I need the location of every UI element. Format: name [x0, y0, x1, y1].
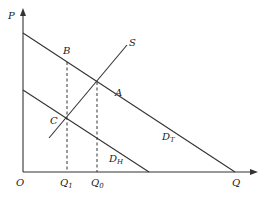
svg-text:DT: DT: [161, 131, 176, 144]
x-axis-arrow-icon: [250, 169, 258, 175]
point-a-label: A: [114, 87, 122, 98]
svg-text:Q0: Q0: [91, 177, 104, 190]
curve-dt: [23, 33, 235, 172]
point-b-label: B: [62, 45, 70, 56]
svg-text:Q1: Q1: [60, 177, 73, 190]
tick-label-q1: Q1: [60, 177, 73, 190]
y-axis-arrow-icon: [20, 8, 26, 16]
curve-dh: [23, 90, 149, 172]
curve-dt-label: DT: [161, 131, 176, 144]
y-axis-label: P: [7, 10, 15, 21]
curve-dh-label: DH: [108, 153, 124, 166]
tick-label-q0: Q0: [91, 177, 104, 190]
x-axis-label: Q: [232, 177, 240, 188]
curve-s-label: S: [129, 37, 136, 48]
economics-diagram: P O Q B A C S DT DH Q1 Q0: [0, 0, 265, 199]
point-c-label: C: [50, 115, 58, 126]
svg-text:DH: DH: [108, 153, 124, 166]
origin-label: O: [16, 177, 24, 188]
